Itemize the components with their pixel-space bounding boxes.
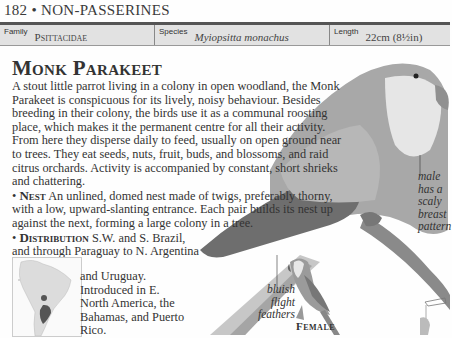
nest-paragraph: • Nest An unlined, domed nest made of tw… bbox=[12, 189, 342, 231]
bullet: • bbox=[12, 231, 16, 245]
range-map bbox=[12, 257, 82, 337]
flight-silhouette-icon bbox=[420, 298, 446, 335]
distribution-paragraph: • Distribution S.W. and S. Brazil, and t… bbox=[12, 231, 342, 259]
species-title: Monk Parakeet bbox=[12, 56, 162, 81]
nest-text: An unlined, domed nest made of twigs, pr… bbox=[12, 189, 333, 230]
intro-paragraph: A stout little parrot living in a colony… bbox=[12, 80, 342, 189]
annotation-bluish: bluish flight feathers bbox=[245, 283, 295, 321]
south-america-range-map-icon bbox=[13, 258, 81, 336]
bullet: • bbox=[12, 189, 16, 203]
distribution-text-line1: S.W. and S. Brazil, bbox=[92, 231, 185, 245]
body-text: A stout little parrot living in a colony… bbox=[12, 80, 342, 259]
distribution-text-rest: and Uruguay. Introduced in E. North Amer… bbox=[80, 270, 190, 338]
caption-female: Female bbox=[296, 320, 335, 332]
nest-heading: Nest bbox=[19, 188, 45, 203]
annotation-male: male has a scaly breast pattern bbox=[418, 170, 452, 233]
distribution-heading: Distribution bbox=[19, 230, 88, 245]
